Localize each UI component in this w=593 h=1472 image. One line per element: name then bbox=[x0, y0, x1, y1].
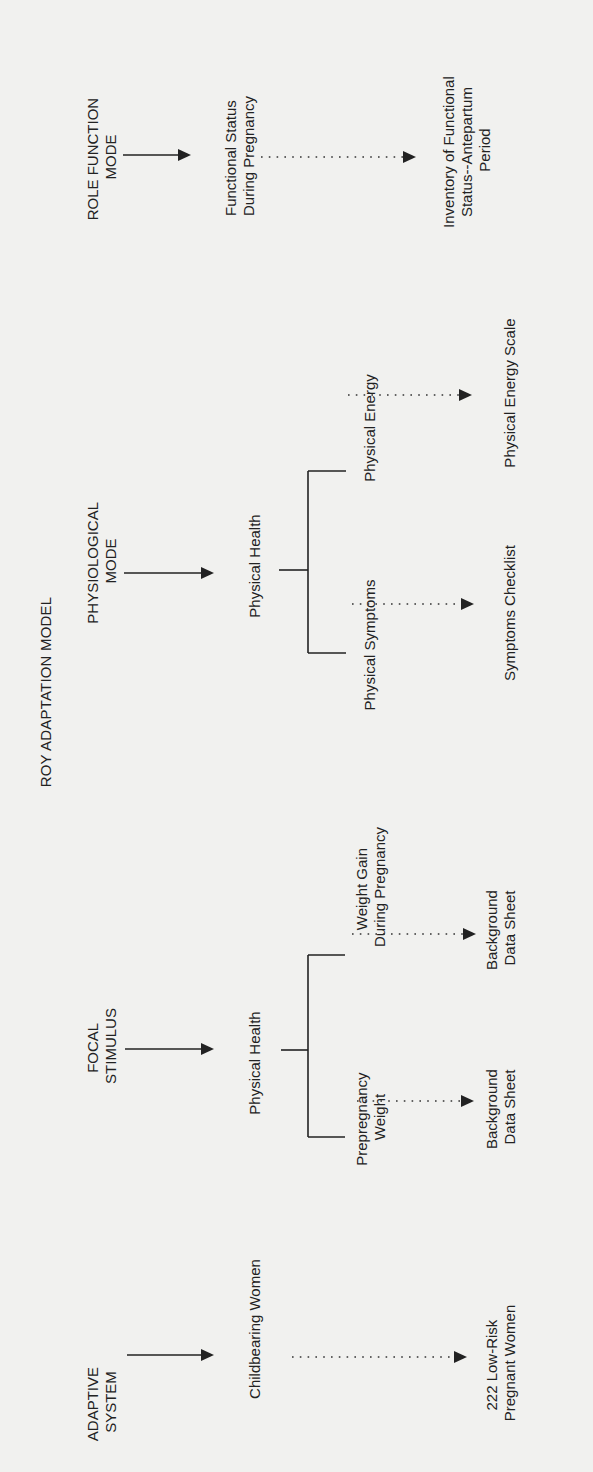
indicator-physical-energy: Physical Energy bbox=[361, 374, 378, 482]
diagram-title: ROY ADAPTATION MODEL bbox=[37, 597, 54, 788]
solid-arrow bbox=[123, 149, 191, 161]
indicator-weight-gain-during-pregnancy: Weight Gain During Pregnancy bbox=[353, 826, 388, 947]
instrument-symptoms-checklist: Symptoms Checklist bbox=[501, 544, 518, 681]
column-role-function-mode: ROLE FUNCTION MODE Functional Status Dur… bbox=[84, 72, 493, 228]
bracket bbox=[279, 471, 346, 653]
variable-functional-status-during-pregnancy: Functional Status During Pregnancy bbox=[222, 95, 257, 216]
dotted-arrow bbox=[261, 151, 416, 163]
solid-arrow bbox=[127, 1349, 214, 1361]
instrument-222-low-risk-pregnant-women: 222 Low-Risk Pregnant Women bbox=[483, 1305, 518, 1421]
concept-physiological-mode: PHYSIOLOGICAL MODE bbox=[84, 498, 119, 623]
instrument-background-data-sheet: Background Data Sheet bbox=[483, 886, 518, 970]
solid-arrow bbox=[125, 1043, 214, 1055]
bracket bbox=[281, 955, 345, 1137]
variable-childbearing-women: Childbearing Women bbox=[246, 1259, 263, 1399]
column-adaptive-system: ADAPTIVE SYSTEM Childbearing Women 222 L… bbox=[84, 1259, 518, 1441]
concept-role-function-mode: ROLE FUNCTION MODE bbox=[84, 94, 119, 221]
indicator-physical-symptoms: Physical Symptoms bbox=[361, 580, 378, 711]
dotted-arrow bbox=[292, 1351, 467, 1363]
variable-physical-health: Physical Health bbox=[246, 514, 263, 617]
roy-adaptation-model-diagram: ROY ADAPTATION MODEL ADAPTIVE SYSTEM Chi… bbox=[0, 0, 593, 1472]
solid-arrow bbox=[124, 567, 214, 579]
concept-focal-stimulus: FOCAL STIMULUS bbox=[84, 1008, 119, 1084]
instrument-inventory-of-functional-status-antepartum-period: Inventory of Functional Status--Antepart… bbox=[440, 72, 493, 228]
variable-physical-health: Physical Health bbox=[246, 1011, 263, 1114]
concept-adaptive-system: ADAPTIVE SYSTEM bbox=[84, 1363, 119, 1441]
instrument-background-data-sheet: Background Data Sheet bbox=[483, 1065, 518, 1149]
column-physiological-mode: PHYSIOLOGICAL MODE Physical Health Physi… bbox=[84, 318, 518, 710]
column-focal-stimulus: FOCAL STIMULUS Physical Health Prepregna… bbox=[84, 826, 518, 1165]
instrument-physical-energy-scale: Physical Energy Scale bbox=[501, 318, 518, 467]
indicator-prepregnancy-weight: Prepregnancy Weight bbox=[353, 1068, 388, 1166]
